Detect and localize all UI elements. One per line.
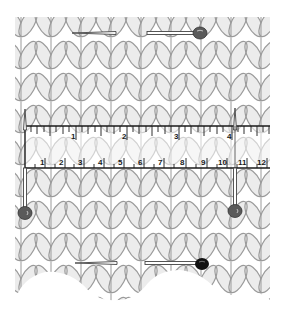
cm-label-2: 2 xyxy=(59,158,64,167)
inch-label-4: 4 xyxy=(227,132,232,141)
cm-label-12: 12 xyxy=(257,158,266,167)
cm-label-9: 9 xyxy=(201,158,206,167)
pin-head-icon xyxy=(195,258,209,270)
inch-label-3: 3 xyxy=(174,132,179,141)
cm-label-1: 1 xyxy=(40,158,45,167)
cm-label-6: 6 xyxy=(138,158,143,167)
cm-label-7: 7 xyxy=(158,158,163,167)
cm-label-3: 3 xyxy=(78,158,83,167)
cm-label-11: 11 xyxy=(238,158,247,167)
pin-head-icon xyxy=(18,207,32,220)
ruler: 1 2 3 4 xyxy=(25,126,270,168)
cm-label-4: 4 xyxy=(98,158,103,167)
cm-label-10: 10 xyxy=(218,158,227,167)
cm-label-8: 8 xyxy=(180,158,185,167)
pin-head-icon xyxy=(193,27,207,39)
knitting-gauge-illustration: 1 2 3 4 xyxy=(0,0,282,310)
pin-head-icon xyxy=(228,205,242,218)
cm-label-5: 5 xyxy=(118,158,123,167)
inch-label-2: 2 xyxy=(122,132,127,141)
inch-label-1: 1 xyxy=(71,132,76,141)
